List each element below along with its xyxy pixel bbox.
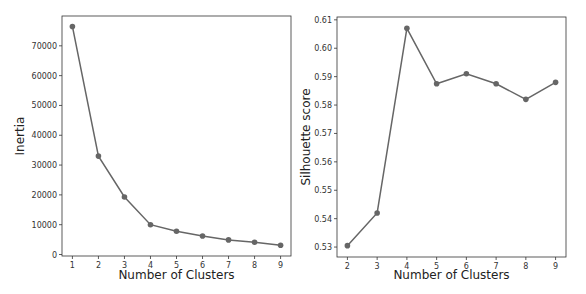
x-tick-label: 3 — [375, 262, 380, 271]
y-tick-label: 0.56 — [314, 158, 332, 167]
x-tick-label: 8 — [252, 261, 257, 270]
data-point — [174, 228, 180, 234]
data-point — [523, 97, 529, 103]
y-tick-label: 10000 — [32, 221, 57, 230]
plot-frame — [337, 17, 566, 257]
y-tick-label: 0.58 — [314, 101, 332, 110]
y-tick-label: 40000 — [32, 131, 57, 140]
y-tick-label: 0.61 — [314, 16, 332, 25]
data-point — [278, 242, 284, 248]
y-tick-label: 0.53 — [314, 243, 332, 252]
plot-frame — [62, 16, 291, 256]
data-point — [200, 233, 206, 239]
data-point — [122, 194, 128, 200]
data-point — [374, 210, 380, 216]
data-point — [434, 81, 440, 87]
y-tick-label: 0 — [52, 251, 57, 260]
data-point — [345, 243, 351, 249]
y-tick-label: 0.54 — [314, 215, 332, 224]
y-axis-label: Silhouette score — [299, 88, 313, 185]
chart-figure: 1234567890100002000030000400005000060000… — [0, 0, 586, 294]
x-tick-label: 2 — [345, 262, 350, 271]
x-axis-label: Number of Clusters — [118, 268, 234, 282]
inertia-chart: 1234567890100002000030000400005000060000… — [13, 16, 291, 282]
data-point — [464, 71, 470, 77]
data-point — [96, 153, 102, 159]
y-tick-label: 70000 — [32, 42, 57, 51]
y-tick-label: 50000 — [32, 101, 57, 110]
y-tick-label: 0.59 — [314, 73, 332, 82]
y-tick-label: 60000 — [32, 72, 57, 81]
silhouette-chart: 234567890.530.540.550.560.570.580.590.60… — [299, 16, 566, 282]
x-axis-label: Number of Clusters — [393, 268, 509, 282]
x-tick-label: 8 — [523, 262, 528, 271]
y-tick-label: 20000 — [32, 191, 57, 200]
y-tick-label: 0.57 — [314, 129, 332, 138]
data-point — [493, 81, 499, 87]
data-point — [70, 24, 76, 30]
data-point — [553, 80, 559, 86]
series-line — [72, 26, 280, 245]
y-tick-label: 0.60 — [314, 44, 332, 53]
data-point — [148, 222, 154, 228]
data-point — [404, 26, 410, 32]
y-axis-label: Inertia — [13, 117, 27, 156]
x-tick-label: 9 — [278, 261, 283, 270]
x-tick-label: 1 — [70, 261, 75, 270]
x-tick-label: 2 — [96, 261, 101, 270]
y-tick-label: 30000 — [32, 161, 57, 170]
data-point — [252, 239, 258, 245]
data-point — [226, 237, 232, 243]
y-tick-label: 0.55 — [314, 186, 332, 195]
x-tick-label: 9 — [553, 262, 558, 271]
